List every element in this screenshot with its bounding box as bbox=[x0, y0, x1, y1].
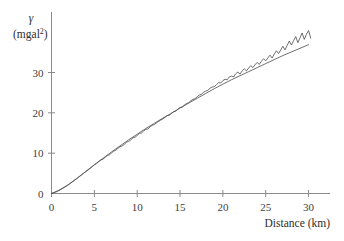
experimental-variogram-curve bbox=[52, 31, 311, 194]
fitted-model-curve bbox=[52, 45, 309, 194]
y-axis-tick-labels: 0102030 bbox=[33, 67, 45, 200]
y-tick-label: 30 bbox=[33, 67, 45, 79]
x-tick-label: 5 bbox=[92, 201, 98, 213]
chart-canvas: 051015202530 0102030 γ (mgal2) Distance … bbox=[0, 0, 344, 241]
y-tick-label: 20 bbox=[33, 107, 45, 119]
x-tick-label: 0 bbox=[49, 201, 55, 213]
x-tick-label: 10 bbox=[132, 201, 144, 213]
variogram-figure: 051015202530 0102030 γ (mgal2) Distance … bbox=[0, 0, 344, 241]
y-tick-label: 10 bbox=[33, 147, 45, 159]
x-axis-tick-labels: 051015202530 bbox=[49, 201, 315, 213]
x-tick-label: 20 bbox=[217, 201, 229, 213]
y-axis-symbol-label: γ bbox=[29, 12, 34, 25]
x-tick-label: 15 bbox=[175, 201, 187, 213]
y-axis-units-label: (mgal2) bbox=[13, 27, 48, 41]
x-axis-title: Distance (km) bbox=[265, 217, 331, 230]
y-tick-label: 0 bbox=[38, 188, 44, 200]
x-tick-label: 30 bbox=[303, 201, 315, 213]
x-tick-label: 25 bbox=[260, 201, 272, 213]
